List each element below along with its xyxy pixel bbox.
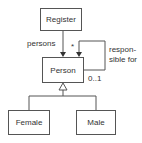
class-person: Person (42, 57, 84, 83)
association-name-line2: sible for (109, 55, 137, 64)
class-female: Female (8, 110, 50, 135)
class-male-label: Male (87, 118, 104, 127)
class-male: Male (76, 110, 116, 135)
generalization-triangle-icon (59, 83, 67, 90)
association-name-line1: respon- (109, 45, 136, 54)
role-persons: persons (27, 39, 55, 48)
multiplicity-many: * (71, 42, 74, 51)
class-person-label: Person (50, 66, 75, 75)
class-female-label: Female (16, 118, 43, 127)
multiplicity-zero-one: 0..1 (88, 74, 101, 83)
class-register: Register (40, 8, 82, 31)
class-register-label: Register (46, 15, 76, 24)
